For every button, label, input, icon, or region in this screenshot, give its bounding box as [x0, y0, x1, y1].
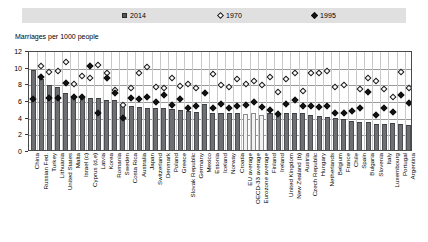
point-1995-hungary: [315, 103, 322, 110]
bar-israel-c: [80, 97, 85, 150]
point-1970-finland: [266, 73, 273, 80]
y-tick-mark-2: [25, 134, 28, 135]
point-1995-italy: [381, 105, 388, 112]
point-1970-austria: [299, 87, 306, 94]
x-tick-label-hungary: Hungary: [320, 153, 326, 176]
point-1970-switzerland: [152, 83, 159, 90]
bar-estonia: [210, 113, 215, 151]
category-gridline: [241, 52, 242, 150]
point-1995-chile: [348, 107, 355, 114]
x-tick-label-poland: Poland: [173, 153, 179, 172]
x-tick-label-slovenia: Slovenia: [378, 153, 384, 177]
point-1995-croatia: [234, 102, 241, 109]
bar-japan: [145, 108, 150, 151]
bar-austria: [300, 113, 305, 150]
point-1970-malta: [70, 81, 77, 88]
category-gridline: [339, 52, 340, 150]
bar-romania: [112, 100, 117, 150]
y-tick-mark-4: [25, 118, 28, 119]
y-tick-label-4: 4: [8, 114, 22, 121]
category-gridline: [94, 52, 95, 150]
bar-italy: [382, 124, 387, 150]
bar-argentina: [406, 125, 411, 150]
x-tick-label-belgium: Belgium: [337, 153, 343, 175]
x-tick-label-luxembourg: Luxembourg: [394, 153, 400, 187]
point-1970-norway: [226, 83, 233, 90]
x-tick-label-sweden: Sweden: [124, 153, 130, 175]
bar-belgium: [333, 118, 338, 151]
point-1995-slovenia: [373, 111, 380, 118]
point-1970-bulgaria: [365, 75, 372, 82]
x-tick-label-united-states: United States: [67, 153, 73, 190]
point-1995-denmark: [160, 91, 167, 98]
bar-croatia: [235, 113, 240, 151]
x-tick-label-finland: Finland: [271, 153, 277, 173]
bar-slovenia: [374, 124, 379, 150]
x-tick-label-argentina: Argentina: [410, 153, 416, 180]
bar-ireland: [276, 113, 281, 150]
point-1970-australia: [136, 69, 143, 76]
bar-sweden: [120, 105, 125, 150]
point-1970-spain: [356, 86, 363, 93]
x-tick-label-israel-c: Israel (c): [83, 153, 89, 177]
x-tick-label-korea: Korea: [108, 153, 114, 170]
y-tick-mark-12: [25, 51, 28, 52]
y-tick-mark-6: [25, 101, 28, 102]
point-1995-argentina: [405, 100, 412, 107]
x-tick-label-costa-rica: Costa Rica: [132, 153, 138, 183]
point-1970-oecd-33-average: [250, 77, 257, 84]
category-gridline: [388, 52, 389, 150]
point-1970-eurozone-average: [258, 81, 265, 88]
bar-cyprus-d-e: [88, 98, 93, 151]
bar-norway: [227, 113, 232, 150]
category-gridline: [380, 52, 381, 150]
bar-france: [341, 119, 346, 150]
bar-germany: [194, 112, 199, 150]
bar-united-kingdom: [284, 113, 289, 150]
bar-slovak-republic: [186, 111, 191, 150]
y-tick-label-0: 0: [8, 148, 22, 155]
x-tick-label-mexico: Mexico: [206, 153, 212, 173]
x-tick-label-netherlands: Netherlands: [329, 153, 335, 186]
y-tick-mark-8: [25, 84, 28, 85]
category-gridline: [45, 52, 46, 150]
x-tick-label-oecd-33-average: OECD-33 average: [255, 153, 261, 204]
point-1970-latvia: [95, 61, 102, 68]
bar-eu-average: [243, 114, 248, 150]
x-tick-label-cyprus-d-e: Cyprus (d,e): [92, 153, 98, 187]
bar-denmark: [161, 108, 166, 150]
bar-korea: [104, 100, 109, 150]
bar-australia: [137, 107, 142, 150]
x-tick-label-chile: Chile: [353, 153, 359, 167]
category-gridline: [290, 52, 291, 150]
x-tick-label-czech-republic: Czech Republic: [312, 153, 318, 196]
x-tick-label-romania: Romania: [116, 153, 122, 178]
point-1970-slovak-republic: [185, 81, 192, 88]
point-1970-belgium: [332, 83, 339, 90]
point-1995-czech-republic: [307, 102, 314, 109]
y-tick-label-12: 12: [8, 48, 22, 55]
x-tick-label-spain: Spain: [361, 153, 367, 169]
bar-costa-rica: [129, 106, 134, 150]
point-1970-greece: [177, 82, 184, 89]
bar-eurozone-average: [259, 115, 264, 150]
filled-diamond-icon: [311, 12, 318, 19]
point-1970-cyprus-d-e: [87, 75, 94, 82]
point-1970-eu-average: [242, 81, 249, 88]
point-1995-bulgaria: [365, 88, 372, 95]
point-1970-france: [340, 81, 347, 88]
point-1995-oecd-33-average: [250, 98, 257, 105]
filled-square-icon: [122, 13, 127, 18]
point-1995-romania: [111, 90, 118, 97]
point-1970-new-zealand-b: [291, 70, 298, 77]
point-1995-germany: [193, 102, 200, 109]
legend-label-1970: 1970: [226, 12, 242, 19]
open-diamond-icon: [217, 12, 224, 19]
x-tick-label-iceland: Iceland: [222, 153, 228, 173]
y-tick-mark-10: [25, 68, 28, 69]
x-tick-label-new-zealand-b: New Zealand (b): [296, 153, 302, 199]
x-tick-label-china: China: [34, 153, 40, 169]
bar-poland: [169, 109, 174, 150]
point-1995-belgium: [332, 110, 339, 117]
x-tick-label-bulgaria: Bulgaria: [369, 153, 375, 176]
